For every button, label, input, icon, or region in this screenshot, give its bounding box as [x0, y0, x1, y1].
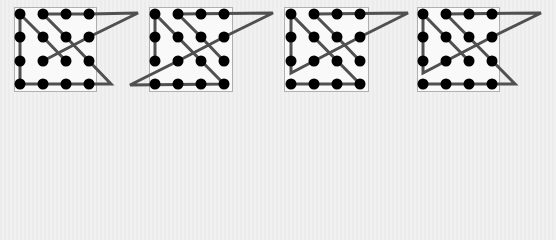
grid-dot: [309, 9, 320, 20]
grid-dot: [464, 9, 475, 20]
grid-dot: [418, 9, 429, 20]
grid-dot: [84, 9, 95, 20]
grid-dot: [286, 79, 297, 90]
grid-dot: [219, 9, 230, 20]
grid-dot: [219, 79, 230, 90]
panel-1: [15, 8, 139, 92]
grid-dot: [15, 79, 26, 90]
grid-dot: [464, 79, 475, 90]
grid-dot: [173, 32, 184, 43]
grid-dot: [219, 32, 230, 43]
grid-dot: [487, 79, 498, 90]
grid-dot: [15, 9, 26, 20]
grid-dot: [150, 56, 161, 67]
grid-dot: [150, 9, 161, 20]
grid-dot: [38, 9, 49, 20]
grid-dot: [309, 32, 320, 43]
grid-dot: [332, 9, 343, 20]
grid-dot: [286, 9, 297, 20]
grid-dot: [196, 9, 207, 20]
panel-2: [130, 8, 273, 92]
grid-dot: [196, 56, 207, 67]
grid-dot: [418, 32, 429, 43]
grid-dot: [355, 56, 366, 67]
grid-dot: [355, 9, 366, 20]
grid-dot: [15, 32, 26, 43]
grid-dot: [150, 79, 161, 90]
grid-dot: [84, 32, 95, 43]
grid-dot: [15, 56, 26, 67]
grid-dot: [173, 56, 184, 67]
grid-dot: [61, 9, 72, 20]
grid-dot: [38, 32, 49, 43]
grid-dot: [286, 32, 297, 43]
grid-dot: [84, 56, 95, 67]
grid-dot: [464, 32, 475, 43]
grid-dot: [487, 32, 498, 43]
grid-dot: [355, 79, 366, 90]
grid-dot: [441, 9, 452, 20]
grid-dot: [309, 56, 320, 67]
nine-dots-puzzle-diagram: [0, 0, 556, 97]
grid-dot: [173, 9, 184, 20]
grid-dot: [150, 32, 161, 43]
grid-dot: [418, 56, 429, 67]
grid-dot: [173, 79, 184, 90]
grid-dot: [309, 79, 320, 90]
grid-dot: [332, 32, 343, 43]
grid-dot: [286, 56, 297, 67]
grid-dot: [61, 79, 72, 90]
grid-dot: [332, 56, 343, 67]
grid-dot: [441, 56, 452, 67]
grid-dot: [61, 32, 72, 43]
grid-dot: [196, 79, 207, 90]
panel-3: [285, 8, 409, 92]
grid-dot: [38, 56, 49, 67]
grid-dot: [441, 32, 452, 43]
grid-dot: [332, 79, 343, 90]
grid-dot: [219, 56, 230, 67]
grid-dot: [487, 9, 498, 20]
grid-dot: [464, 56, 475, 67]
grid-dot: [61, 56, 72, 67]
panel-4: [418, 8, 542, 92]
grid-dot: [418, 79, 429, 90]
grid-dot: [84, 79, 95, 90]
grid-dot: [196, 32, 207, 43]
grid-dot: [441, 79, 452, 90]
grid-dot: [38, 79, 49, 90]
grid-dot: [355, 32, 366, 43]
grid-dot: [487, 56, 498, 67]
diagram-canvas: [0, 0, 556, 97]
